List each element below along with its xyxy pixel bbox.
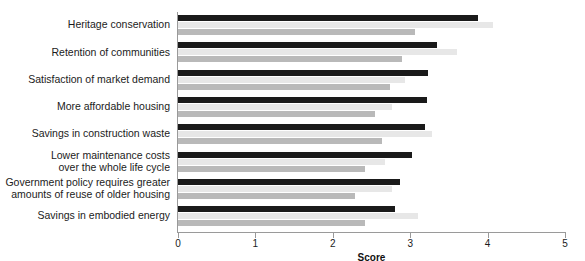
bar-5-series-1: [178, 124, 425, 130]
bar-7-series-3: [178, 193, 355, 199]
bar-chart: Heritage conservationRetention of commun…: [0, 0, 585, 261]
category-label-4: More affordable housing: [0, 101, 170, 113]
category-label-3: Satisfaction of market demand: [0, 74, 170, 86]
bar-6-series-1: [178, 152, 412, 158]
bar-group: [178, 152, 565, 172]
bar-group: [178, 42, 565, 62]
bar-1-series-3: [178, 29, 415, 35]
bar-4-series-2: [178, 104, 392, 110]
category-label-line: over the whole life cycle: [0, 162, 170, 174]
bar-group: [178, 70, 565, 90]
bar-6-series-3: [178, 166, 365, 172]
bar-group: [178, 124, 565, 144]
category-label-7: Government policy requires greateramount…: [0, 177, 170, 200]
bar-group: [178, 179, 565, 199]
x-axis-title-wrap: Score: [178, 247, 565, 261]
bar-4-series-1: [178, 97, 427, 103]
category-label-line: Satisfaction of market demand: [0, 74, 170, 86]
bar-4-series-3: [178, 111, 375, 117]
category-label-2: Retention of communities: [0, 47, 170, 59]
bar-7-series-2: [178, 186, 392, 192]
bar-group: [178, 206, 565, 226]
category-label-5: Savings in construction waste: [0, 128, 170, 140]
bar-8-series-2: [178, 213, 418, 219]
category-label-8: Savings in embodied energy: [0, 210, 170, 222]
category-label-line: Retention of communities: [0, 47, 170, 59]
bar-2-series-1: [178, 42, 437, 48]
bar-3-series-2: [178, 77, 405, 83]
bar-2-series-2: [178, 49, 457, 55]
category-label-line: Savings in embodied energy: [0, 210, 170, 222]
bar-1-series-1: [178, 15, 478, 21]
x-axis-title: Score: [358, 252, 386, 261]
bar-7-series-1: [178, 179, 400, 185]
category-label-line: Savings in construction waste: [0, 128, 170, 140]
category-label-6: Lower maintenance costsover the whole li…: [0, 150, 170, 173]
category-label-line: amounts of reuse of older housing: [0, 189, 170, 201]
bar-5-series-2: [178, 131, 432, 137]
value-axis-line: [177, 232, 566, 233]
bar-group: [178, 97, 565, 117]
bar-8-series-3: [178, 220, 365, 226]
bar-1-series-2: [178, 22, 493, 28]
category-label-1: Heritage conservation: [0, 19, 170, 31]
bar-5-series-3: [178, 138, 382, 144]
category-label-line: More affordable housing: [0, 101, 170, 113]
bar-group: [178, 15, 565, 35]
category-label-line: Heritage conservation: [0, 19, 170, 31]
bar-8-series-1: [178, 206, 395, 212]
category-label-line: Lower maintenance costs: [0, 150, 170, 162]
bars-area: [178, 13, 565, 232]
bar-3-series-3: [178, 84, 390, 90]
bar-6-series-2: [178, 159, 385, 165]
bar-2-series-3: [178, 56, 402, 62]
bar-3-series-1: [178, 70, 428, 76]
